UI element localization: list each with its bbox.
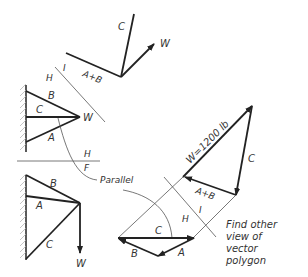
top-ab-label: A+B [80,68,103,85]
side-view: B A C W [20,174,87,269]
note-line-2: view of [226,231,263,242]
top-view: C W A+B [66,14,171,85]
parallel-leader: Parallel [58,118,134,185]
b-vector-bottom [119,239,158,256]
fold-h-label: H [46,73,53,83]
side-b-label: B [50,178,57,189]
fold-f-label: F [84,163,90,173]
side-c-label: C [46,239,53,250]
front-a-label: A [47,132,55,143]
fold-i2-label: I [199,205,202,215]
find-note: Find other view of vector polygon [225,219,278,266]
side-w-label: W [76,258,87,269]
note-line-1: Find other [226,219,278,230]
vector-diagram: C W A+B I H B C A W H F Paral [0,0,308,277]
wall-hatch-top [20,84,26,150]
c-member-side [26,203,80,259]
parallel-curve [58,118,97,180]
front-view: B C A W [20,84,94,152]
fold-h3-label: H [182,214,189,224]
vector-polygon: W=1200 lb C A+B [183,106,255,202]
fold-h2-label: H [84,149,91,159]
side-a-label: A [35,200,43,211]
fold-i-label: I [63,63,66,73]
bottom-b-label: B [131,248,138,259]
w-1200-label: W=1200 lb [184,118,231,165]
front-w-label: W [83,112,94,123]
bottom-c-label: C [155,225,162,236]
wall-hatch-bottom [20,174,26,258]
parallel-arc [123,190,172,238]
projection-lines: H I [118,177,236,238]
bottom-polygon: C B A [118,225,194,259]
parallel-label: Parallel [100,175,134,185]
note-line-3: vector [226,243,259,254]
front-c-label: C [36,104,43,115]
front-b-label: B [48,90,55,101]
bottom-a-label: A [177,247,185,258]
projection-line-1 [118,177,183,238]
polygon-c-label: C [248,153,255,164]
a-vector-bottom [158,238,194,256]
note-line-4: polygon [225,255,266,266]
top-w-label: W [160,38,171,49]
fold-line-hf: H F [17,149,100,173]
top-c-label: C [118,21,125,32]
